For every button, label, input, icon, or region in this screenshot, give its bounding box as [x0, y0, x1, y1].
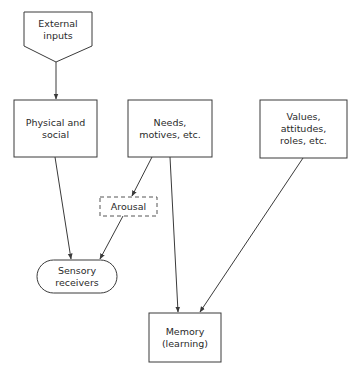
- arousal-label: Arousal: [100, 197, 157, 216]
- sensory-receivers-label: Sensory receivers: [37, 260, 117, 293]
- edge-needs-to-memory: [170, 157, 178, 312]
- memory-label: Memory (learning): [149, 313, 221, 362]
- edge-physical-to-sensory: [55, 157, 71, 259]
- edge-needs-to-arousal: [132, 157, 152, 196]
- needs-motives-label: Needs, motives, etc.: [128, 100, 212, 157]
- edge-arousal-to-sensory: [100, 216, 123, 259]
- edge-values-to-memory: [200, 158, 303, 312]
- external-inputs-label: External inputs: [24, 14, 92, 46]
- values-attitudes-label: Values, attitudes, roles, etc.: [260, 100, 347, 158]
- physical-social-label: Physical and social: [14, 100, 97, 157]
